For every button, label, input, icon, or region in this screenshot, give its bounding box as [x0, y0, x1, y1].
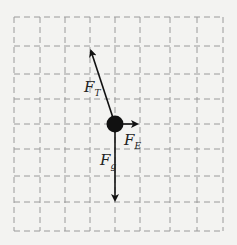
tension-label: FT — [84, 80, 100, 98]
charged-ball — [107, 116, 124, 133]
electric-force-label: FE — [124, 133, 141, 151]
gravity-label: Fg — [100, 153, 116, 171]
grid-and-vectors — [0, 0, 237, 245]
free-body-diagram: FT FE Fg — [0, 0, 237, 245]
